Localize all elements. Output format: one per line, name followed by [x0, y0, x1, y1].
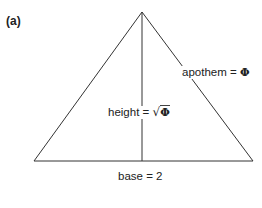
- height-name: height: [108, 106, 139, 118]
- base-label: base = 2: [118, 170, 162, 183]
- panel-label: (a): [6, 15, 21, 28]
- phi-symbol: Φ: [240, 66, 250, 79]
- sqrt-icon: √: [152, 105, 160, 119]
- equals-sign: =: [143, 106, 150, 118]
- apothem-name: apothem: [182, 66, 227, 78]
- right-side-apothem: [142, 12, 253, 161]
- left-side: [34, 12, 142, 161]
- base-value: 2: [156, 170, 162, 182]
- equals-sign: =: [230, 66, 237, 78]
- phi-symbol: Φ: [160, 105, 170, 119]
- equals-sign: =: [146, 170, 153, 182]
- base-name: base: [118, 170, 143, 182]
- height-label: height = √Φ: [107, 106, 171, 119]
- apothem-label: apothem = Φ: [181, 66, 250, 79]
